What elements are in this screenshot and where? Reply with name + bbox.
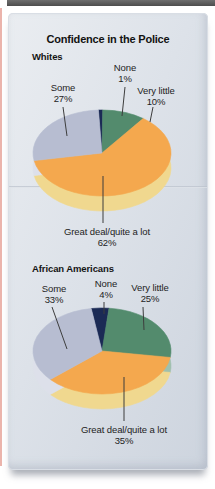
page-edge-strip: [7, 0, 215, 6]
slice-label-pct: 62%: [42, 237, 172, 248]
slice-label-afram-very-little: Very little 25%: [108, 282, 192, 304]
slice-label-whites-none: None 1%: [95, 62, 155, 84]
slice-label-pct: 1%: [95, 73, 155, 84]
slice-label-afram-great-deal: Great deal/quite a lot 35%: [59, 424, 189, 446]
group-label-african-americans: African Americans: [32, 263, 114, 274]
slice-label-text: Great deal/quite a lot: [42, 226, 172, 237]
slice-label-pct: 27%: [33, 93, 93, 104]
slice-label-whites-some: Some 27%: [33, 82, 93, 104]
slice-label-pct: 35%: [59, 435, 189, 446]
slice-label-whites-very-little: Very little 10%: [114, 85, 198, 107]
slice-label-pct: 25%: [108, 293, 192, 304]
slice-label-pct: 10%: [114, 96, 198, 107]
slice-label-whites-great-deal: Great deal/quite a lot 62%: [42, 226, 172, 248]
slice-label-afram-some: Some 33%: [24, 283, 84, 305]
figure: Confidence in the Police Whites African …: [0, 0, 215, 489]
group-label-whites: Whites: [32, 51, 63, 62]
slice-label-text: Great deal/quite a lot: [59, 424, 189, 435]
slice-label-text: Very little: [108, 282, 192, 293]
slice-label-pct: 33%: [24, 294, 84, 305]
figure-title: Confidence in the Police: [8, 33, 208, 45]
slice-label-text: None: [95, 62, 155, 73]
slice-label-text: Some: [33, 82, 93, 93]
slice-label-text: Very little: [114, 85, 198, 96]
panel-seam-line: [9, 186, 207, 188]
page-edge-line: [0, 8, 2, 466]
slice-label-text: Some: [24, 283, 84, 294]
